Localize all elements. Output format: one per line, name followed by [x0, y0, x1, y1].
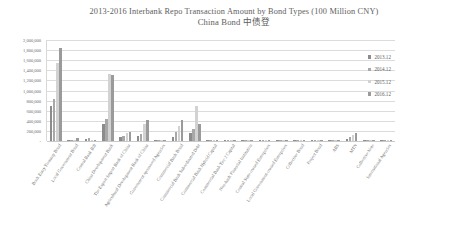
- plot-area: [46, 40, 395, 141]
- bar: [129, 132, 132, 141]
- bar-group: [325, 40, 342, 141]
- bar-group: [99, 40, 116, 141]
- chart-legend: 2013.122014.122015.122016.12: [368, 54, 391, 97]
- bar-group: [343, 40, 360, 141]
- legend-label: 2014.12: [374, 66, 391, 72]
- chart-title: 2013-2016 Interbank Repo Transaction Amo…: [0, 6, 468, 17]
- x-axis-tick: Non-bank Financial Institution: [218, 143, 253, 192]
- bar-group: [117, 40, 134, 141]
- bar-group: [291, 40, 308, 141]
- x-axis-tick: Collective Bond: [285, 143, 306, 170]
- y-axis-tick: 2,000,000: [23, 38, 41, 43]
- x-axis-tick: Project Bond: [305, 143, 322, 165]
- legend-label: 2013.12: [374, 54, 391, 60]
- bar-group: [256, 40, 273, 141]
- x-axis-tick: Government-sponsored Agencies: [129, 143, 167, 195]
- bar-group: [64, 40, 81, 141]
- legend-swatch-icon: [368, 92, 371, 95]
- bar-group: [221, 40, 238, 141]
- legend-label: 2016.12: [374, 91, 391, 97]
- x-axis-tick-labels: Book Entry Treasury BondLocal Government…: [46, 141, 394, 242]
- y-axis-tick: 1,400,000: [23, 68, 41, 73]
- y-axis-tick: 1,000,000: [23, 88, 41, 93]
- legend-item[interactable]: 2016.12: [368, 91, 391, 97]
- bar: [198, 124, 201, 141]
- legend-swatch-icon: [368, 80, 371, 83]
- y-axis-tick: -: [40, 139, 41, 144]
- legend-item[interactable]: 2013.12: [368, 54, 391, 60]
- y-axis-tick: 800,000: [26, 98, 41, 103]
- legend-item[interactable]: 2014.12: [368, 66, 391, 72]
- bar-group: [186, 40, 203, 141]
- y-axis-tick: 1,600,000: [23, 58, 41, 63]
- bar-group: [47, 40, 64, 141]
- bar-group: [308, 40, 325, 141]
- y-axis-tick: 200,000: [26, 128, 41, 133]
- legend-swatch-icon: [368, 68, 371, 71]
- chart-container: 2013-2016 Interbank Repo Transaction Amo…: [0, 0, 468, 242]
- chart-title-block: 2013-2016 Interbank Repo Transaction Amo…: [0, 6, 468, 28]
- y-axis-tick: 1,800,000: [23, 48, 41, 53]
- bar: [111, 75, 114, 141]
- bar-group: [238, 40, 255, 141]
- x-axis-tick: ABS: [331, 143, 340, 153]
- x-axis-tick: MTN: [348, 143, 358, 154]
- bar: [181, 120, 184, 141]
- y-axis-tick: 600,000: [26, 108, 41, 113]
- bar-group: [169, 40, 186, 141]
- legend-item[interactable]: 2015.12: [368, 79, 391, 85]
- bar-group: [204, 40, 221, 141]
- y-axis-tick: 400,000: [26, 118, 41, 123]
- x-axis-tick: Book Entry Treasury Bond: [30, 143, 61, 186]
- legend-label: 2015.12: [374, 79, 391, 85]
- legend-swatch-icon: [368, 55, 371, 58]
- bar-group: [134, 40, 151, 141]
- bar: [59, 48, 62, 141]
- y-axis-tick-labels: 2,000,0001,800,0001,600,0001,400,0001,20…: [0, 40, 44, 141]
- chart-subtitle: China Bond 中债登: [0, 17, 468, 28]
- bar: [146, 120, 149, 141]
- bar-group: [151, 40, 168, 141]
- bar-group: [82, 40, 99, 141]
- bar: [355, 133, 358, 141]
- y-axis-tick: 1,200,000: [23, 78, 41, 83]
- bar-groups: [47, 40, 395, 141]
- bar-group: [273, 40, 290, 141]
